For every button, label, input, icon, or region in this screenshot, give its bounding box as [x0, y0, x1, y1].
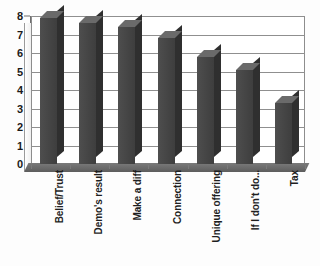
x-tick-mark: [70, 165, 71, 169]
x-tick-mark: [31, 165, 32, 169]
x-axis-label: Belief/Trust: [54, 170, 65, 223]
bar: [158, 38, 175, 164]
bar: [275, 103, 292, 164]
x-tick-mark: [266, 165, 267, 169]
y-tick-mark: [24, 16, 30, 17]
bar: [236, 70, 253, 164]
x-tick-mark: [188, 165, 189, 169]
x-axis-label: Make a diff: [132, 170, 143, 221]
x-tick-mark: [305, 165, 306, 169]
bar-side: [135, 14, 142, 157]
bar: [118, 27, 135, 164]
y-tick-label: 2: [17, 121, 23, 133]
bar-face: [40, 18, 57, 164]
bar-chart: 012345678 Belief/TrustDemo's resultMake …: [0, 0, 320, 266]
x-axis-label: Unique offering: [211, 170, 222, 242]
y-tick-label: 4: [17, 84, 23, 96]
y-tick-label: 3: [17, 103, 23, 115]
y-tick-label: 1: [17, 140, 23, 152]
bar-side: [214, 44, 221, 157]
x-tick-mark: [148, 165, 149, 169]
x-tick-mark: [227, 165, 228, 169]
bar-side: [175, 25, 182, 157]
bar: [79, 23, 96, 164]
bar-face: [158, 38, 175, 164]
bar-face: [79, 23, 96, 164]
x-axis-label: Connection: [172, 170, 183, 224]
y-tick-label: 8: [17, 10, 23, 22]
y-tick-label: 6: [17, 47, 23, 59]
bar-face: [275, 103, 292, 164]
bar: [40, 18, 57, 164]
bar-face: [236, 70, 253, 164]
x-axis-labels: Belief/TrustDemo's resultMake a diffConn…: [31, 168, 305, 264]
bar-side: [57, 5, 64, 157]
gridline: [31, 16, 305, 17]
bar: [197, 57, 214, 164]
y-tick-label: 5: [17, 66, 23, 78]
x-axis-label: Demo's result: [93, 170, 104, 234]
bar-side: [96, 10, 103, 157]
plot-area: [31, 16, 305, 164]
bar-face: [118, 27, 135, 164]
x-axis-label: Tax: [289, 170, 300, 186]
bar-side: [253, 57, 260, 157]
y-tick-label: 0: [17, 158, 23, 170]
x-tick-mark: [109, 165, 110, 169]
x-axis-label: If I don't do...: [250, 170, 261, 230]
bar-face: [197, 57, 214, 164]
y-tick-label: 7: [17, 29, 23, 41]
plot-wall-side: [24, 23, 31, 171]
